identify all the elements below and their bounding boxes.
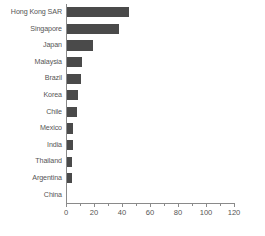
category-label: Brazil — [4, 70, 62, 87]
bar-track — [67, 120, 257, 137]
category-label: Argentina — [4, 170, 62, 187]
bar-row: Mexico — [0, 120, 265, 137]
category-label: Chile — [4, 104, 62, 121]
x-axis-major-tick — [122, 203, 123, 207]
x-axis-major-tick — [178, 203, 179, 207]
bar-track — [67, 54, 257, 71]
x-axis-major-tick — [66, 203, 67, 207]
x-axis-major-tick — [234, 203, 235, 207]
x-axis-minor-tick — [136, 203, 137, 206]
x-axis-minor-tick — [192, 203, 193, 206]
bar-track — [67, 4, 257, 21]
bar-row: India — [0, 137, 265, 154]
x-axis-minor-tick — [108, 203, 109, 206]
category-label: Malaysia — [4, 54, 62, 71]
bar-track — [67, 21, 257, 38]
bar — [67, 157, 72, 167]
bar-track — [67, 170, 257, 187]
x-axis-tick-label: 100 — [200, 208, 213, 217]
bar-row: Hong Kong SAR — [0, 4, 265, 21]
bar-row: Singapore — [0, 21, 265, 38]
plot-area: Hong Kong SARSingaporeJapanMalaysiaBrazi… — [0, 0, 265, 236]
category-label: Korea — [4, 87, 62, 104]
category-label: Singapore — [4, 21, 62, 38]
bar-row: Chile — [0, 104, 265, 121]
x-axis-major-tick — [206, 203, 207, 207]
bar — [67, 24, 119, 34]
category-label: Mexico — [4, 120, 62, 137]
bar-rows-container: Hong Kong SARSingaporeJapanMalaysiaBrazi… — [0, 4, 265, 203]
bar-row: Argentina — [0, 170, 265, 187]
category-label: Japan — [4, 37, 62, 54]
x-axis-tick-label: 40 — [118, 208, 126, 217]
bar-track — [67, 187, 257, 204]
bar-row: Thailand — [0, 153, 265, 170]
x-axis-tick-label: 120 — [228, 208, 241, 217]
bar — [67, 173, 72, 183]
bar-track — [67, 137, 257, 154]
horizontal-bar-chart: Hong Kong SARSingaporeJapanMalaysiaBrazi… — [0, 0, 265, 236]
bar-track — [67, 153, 257, 170]
category-label: China — [4, 187, 62, 204]
bar-track — [67, 70, 257, 87]
x-axis-minor-tick — [80, 203, 81, 206]
bar-row: China — [0, 187, 265, 204]
bar-row: Japan — [0, 37, 265, 54]
bar — [67, 140, 73, 150]
x-axis-tick-layer: 020406080100120 — [66, 203, 236, 233]
x-axis-minor-tick — [164, 203, 165, 206]
bar-track — [67, 87, 257, 104]
x-axis-tick-label: 0 — [64, 208, 68, 217]
category-label: Hong Kong SAR — [4, 4, 62, 21]
x-axis-tick-label: 60 — [146, 208, 154, 217]
x-axis-tick-label: 20 — [90, 208, 98, 217]
x-axis-major-tick — [94, 203, 95, 207]
x-axis-major-tick — [150, 203, 151, 207]
bar — [67, 90, 78, 100]
bar-track — [67, 104, 257, 121]
x-axis-tick-label: 80 — [174, 208, 182, 217]
category-label: India — [4, 137, 62, 154]
bar — [67, 7, 129, 17]
bar — [67, 57, 82, 67]
bar-row: Malaysia — [0, 54, 265, 71]
bar-track — [67, 37, 257, 54]
bar — [67, 74, 81, 84]
bar-row: Brazil — [0, 70, 265, 87]
category-label: Thailand — [4, 153, 62, 170]
bar — [67, 123, 73, 133]
bar — [67, 40, 93, 50]
bar — [67, 107, 77, 117]
x-axis-minor-tick — [220, 203, 221, 206]
bar-row: Korea — [0, 87, 265, 104]
